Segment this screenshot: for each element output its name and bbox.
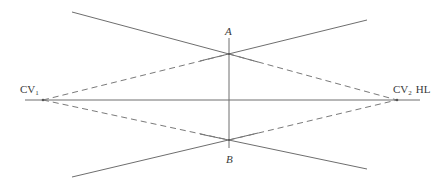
dashed-cv1-to-b xyxy=(43,100,229,140)
label-cv1-sub: 1 xyxy=(35,89,39,97)
top-left-line xyxy=(72,12,229,54)
label-cv2-hl: CV2HL xyxy=(393,83,431,97)
point-b-marker xyxy=(228,139,230,141)
label-cv1-main: CV xyxy=(20,83,35,95)
label-a: A xyxy=(224,25,232,37)
label-b: B xyxy=(226,153,233,165)
cv1-point-marker xyxy=(42,99,45,102)
dashed-b-to-cv2 xyxy=(229,100,397,140)
label-cv2-main: CV xyxy=(393,83,408,95)
cv2-point-marker xyxy=(396,99,399,102)
point-a-marker xyxy=(228,53,230,55)
perspective-diagram: A B CV1 CV2HL xyxy=(0,0,448,188)
label-cv2-sub: 2 xyxy=(408,89,412,97)
label-hl: HL xyxy=(416,83,431,95)
label-cv1: CV1 xyxy=(20,83,39,97)
dashed-cv1-to-a xyxy=(43,54,229,100)
